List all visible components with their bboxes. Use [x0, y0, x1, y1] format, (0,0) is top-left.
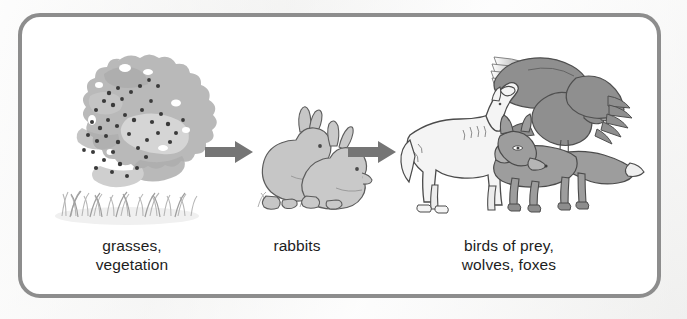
label-producers-line1: grasses,	[102, 237, 161, 254]
label-primary-consumers: rabbits	[222, 236, 372, 255]
label-predators-line1: birds of prey,	[464, 237, 554, 254]
label-predators: birds of prey, wolves, foxes	[398, 236, 620, 274]
label-producers-line2: vegetation	[96, 256, 169, 273]
label-primary-consumers-line1: rabbits	[273, 237, 320, 254]
label-predators-line2: wolves, foxes	[462, 256, 556, 273]
diagram-canvas: grasses, vegetation rabbits birds of pre…	[0, 0, 687, 319]
label-producers: grasses, vegetation	[36, 236, 228, 274]
